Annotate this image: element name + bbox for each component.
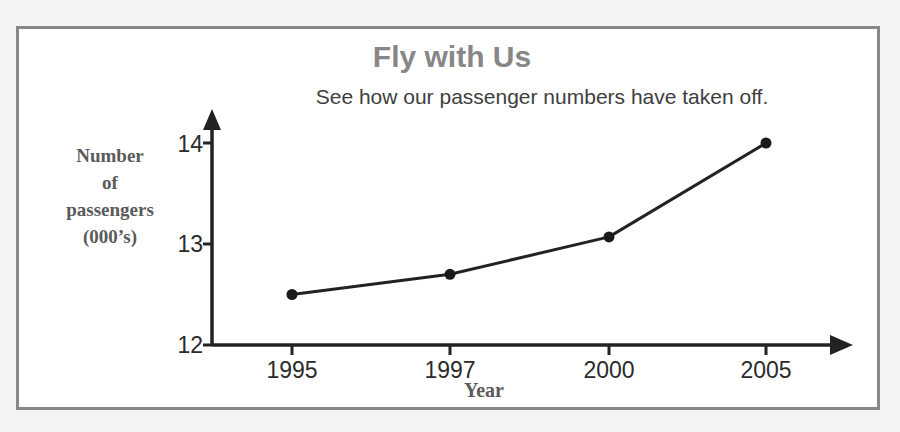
chart-poster-stage: Fly with Us See how our passenger number…: [0, 0, 900, 432]
y-axis-arrowhead: [203, 109, 221, 130]
plot-area: [0, 0, 900, 432]
data-line-series-passengers: [292, 143, 766, 295]
data-point-1995: [287, 289, 298, 300]
data-point-2000: [604, 231, 615, 242]
x-axis-arrowhead: [830, 335, 853, 355]
data-markers: [287, 138, 772, 301]
data-point-1997: [445, 269, 456, 280]
data-point-2005: [761, 138, 772, 149]
